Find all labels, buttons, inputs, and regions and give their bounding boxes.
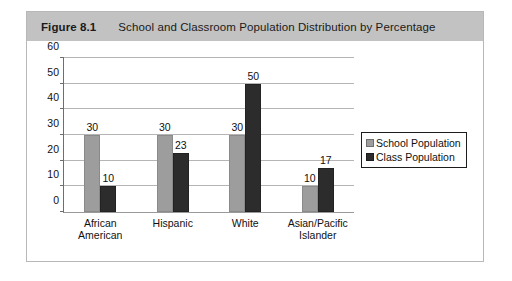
bar-pair: 3050 [209,58,282,212]
bar-school-population[interactable]: 30 [84,135,100,212]
legend-item-school-population[interactable]: School Population [366,136,461,150]
bar-value-label: 30 [159,121,171,133]
bar-pair: 3023 [137,58,210,212]
chart-legend: School Population Class Population [361,132,467,168]
bar-value-label: 17 [320,154,332,166]
bar-pair: 3010 [64,58,137,212]
bar-value-label: 10 [102,172,114,184]
legend-label-class: Class Population [376,150,455,164]
bar-class-population[interactable]: 17 [318,168,334,212]
bar-value-label: 50 [247,70,259,82]
y-axis-tick-label: 20 [47,143,59,155]
chart-area: 0102030405060 3010African American3023Hi… [27,41,483,262]
bar-groups: 3010African American3023Hispanic3050Whit… [64,58,354,212]
y-axis-tick-label: 30 [47,117,59,129]
legend-swatch-icon-class [366,153,374,161]
bar-value-label: 10 [304,172,316,184]
figure-header: Figure 8.1 School and Classroom Populati… [27,12,483,41]
x-axis-category-label: White [232,217,259,229]
bar-group: 3010African American [64,58,137,212]
bar-group: 1017Asian/Pacific Islander [282,58,355,212]
bar-group: 3023Hispanic [137,58,210,212]
bar-school-population[interactable]: 10 [302,186,318,212]
x-axis-category-label: Asian/Pacific Islander [288,217,348,241]
bar-class-population[interactable]: 50 [245,84,261,212]
bar-group: 3050White [209,58,282,212]
bar-pair: 1017 [282,58,355,212]
y-axis-tick-label: 50 [47,66,59,78]
x-axis-category-label: African American [78,217,122,241]
y-axis-tick-label: 10 [47,168,59,180]
bar-value-label: 30 [86,121,98,133]
legend-label-school: School Population [376,136,461,150]
x-axis-category-label: Hispanic [153,217,193,229]
figure-number: Figure 8.1 [41,21,96,33]
bar-value-label: 30 [231,121,243,133]
figure-title: School and Classroom Population Distribu… [118,21,435,33]
bar-school-population[interactable]: 30 [229,135,245,212]
y-axis-tick-label: 40 [47,91,59,103]
bar-class-population[interactable]: 23 [173,153,189,212]
bar-school-population[interactable]: 30 [157,135,173,212]
legend-swatch-icon-school [366,139,374,147]
legend-item-class-population[interactable]: Class Population [366,150,461,164]
y-axis-tick-label: 60 [47,40,59,52]
plot-area: 0102030405060 3010African American3023Hi… [63,58,354,213]
y-axis-tick-label: 0 [53,194,59,206]
bar-class-population[interactable]: 10 [100,186,116,212]
bar-value-label: 23 [175,139,187,151]
figure-card: Figure 8.1 School and Classroom Populati… [26,11,484,262]
